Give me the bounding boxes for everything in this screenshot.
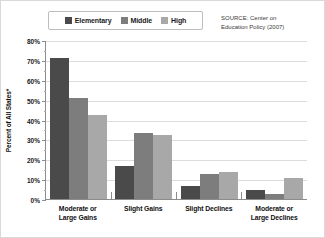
y-axis-title: Percent of All States*: [3, 53, 15, 188]
source-note: SOURCE: Center on Education Policy (2007…: [221, 14, 317, 31]
bar-group: [46, 41, 111, 199]
y-axis-tick: [42, 200, 46, 201]
y-axis-tick-label: 20%: [27, 157, 40, 164]
chart-legend: ElementaryMiddleHigh: [48, 11, 203, 30]
x-axis-label: Moderate orLarge Declines: [242, 204, 308, 222]
legend-entry-elementary[interactable]: Elementary: [65, 17, 112, 24]
x-axis-label: Moderate orLarge Gains: [45, 204, 111, 222]
bar-middle[interactable]: [134, 133, 153, 199]
y-axis-tick-label: 80%: [27, 38, 40, 45]
bar-middle[interactable]: [200, 174, 219, 199]
plot-area: 0%10%20%30%40%50%60%70%80%: [45, 41, 307, 200]
x-axis-label-line-1: Slight Gains: [111, 204, 177, 213]
bar-high[interactable]: [284, 178, 303, 199]
bar-group: [111, 41, 176, 199]
bar-high[interactable]: [153, 135, 172, 199]
bar-high[interactable]: [88, 115, 107, 199]
y-axis-tick-label: 60%: [27, 77, 40, 84]
y-axis-tick-label: 40%: [27, 117, 40, 124]
chart-figure: ElementaryMiddleHigh SOURCE: Center on E…: [0, 0, 325, 238]
bar-high[interactable]: [219, 172, 238, 199]
y-axis-tick-label: 50%: [27, 97, 40, 104]
bar-groups: [46, 41, 307, 199]
source-line-1: SOURCE: Center on: [221, 14, 317, 23]
source-line-2: Education Policy (2007): [221, 23, 317, 32]
x-axis-label-line-2: Large Gains: [45, 213, 111, 222]
legend-swatch-icon: [121, 17, 128, 24]
bar-group: [242, 41, 307, 199]
x-axis-label-line-2: Large Declines: [242, 213, 308, 222]
bar-middle[interactable]: [69, 98, 88, 199]
legend-entry-high[interactable]: High: [161, 17, 186, 24]
bar-middle[interactable]: [265, 194, 284, 199]
legend-label: High: [171, 17, 186, 24]
x-axis-label: Slight Gains: [111, 204, 177, 222]
bar-elementary[interactable]: [181, 186, 200, 199]
x-axis-label: Slight Declines: [176, 204, 242, 222]
legend-swatch-icon: [65, 17, 72, 24]
x-axis-label-line-1: Moderate or: [242, 204, 308, 213]
bar-elementary[interactable]: [115, 166, 134, 199]
legend-label: Middle: [131, 17, 153, 24]
y-axis-tick-label: 70%: [27, 57, 40, 64]
legend-label: Elementary: [75, 17, 112, 24]
bar-elementary[interactable]: [246, 190, 265, 199]
y-axis-tick-label: 10%: [27, 177, 40, 184]
legend-entry-middle[interactable]: Middle: [121, 17, 153, 24]
y-axis-title-text: Percent of All States*: [6, 89, 13, 152]
bar-elementary[interactable]: [50, 58, 69, 199]
x-axis-label-line-1: Moderate or: [45, 204, 111, 213]
bar-group: [177, 41, 242, 199]
x-axis-labels: Moderate orLarge GainsSlight GainsSlight…: [45, 204, 307, 222]
y-axis-tick-label: 30%: [27, 137, 40, 144]
x-axis-label-line-1: Slight Declines: [176, 204, 242, 213]
y-axis-tick-label: 0%: [31, 197, 40, 204]
legend-swatch-icon: [161, 17, 168, 24]
